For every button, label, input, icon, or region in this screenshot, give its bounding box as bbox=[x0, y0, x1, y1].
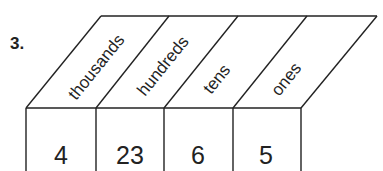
header-ones: ones bbox=[267, 59, 305, 100]
value-tens: 6 bbox=[191, 141, 205, 169]
place-value-chart: thousands 4 hundreds 23 tens 6 ones 5 bbox=[0, 0, 383, 171]
column-ones: ones 5 bbox=[259, 59, 305, 169]
column-hundreds: hundreds 23 bbox=[116, 32, 193, 169]
value-ones: 5 bbox=[259, 141, 273, 169]
header-hundreds: hundreds bbox=[133, 32, 192, 99]
header-tens: tens bbox=[199, 61, 234, 98]
value-hundreds: 23 bbox=[116, 141, 144, 169]
header-thousands: thousands bbox=[64, 31, 128, 104]
column-tens: tens 6 bbox=[191, 61, 234, 169]
value-thousands: 4 bbox=[54, 141, 68, 169]
